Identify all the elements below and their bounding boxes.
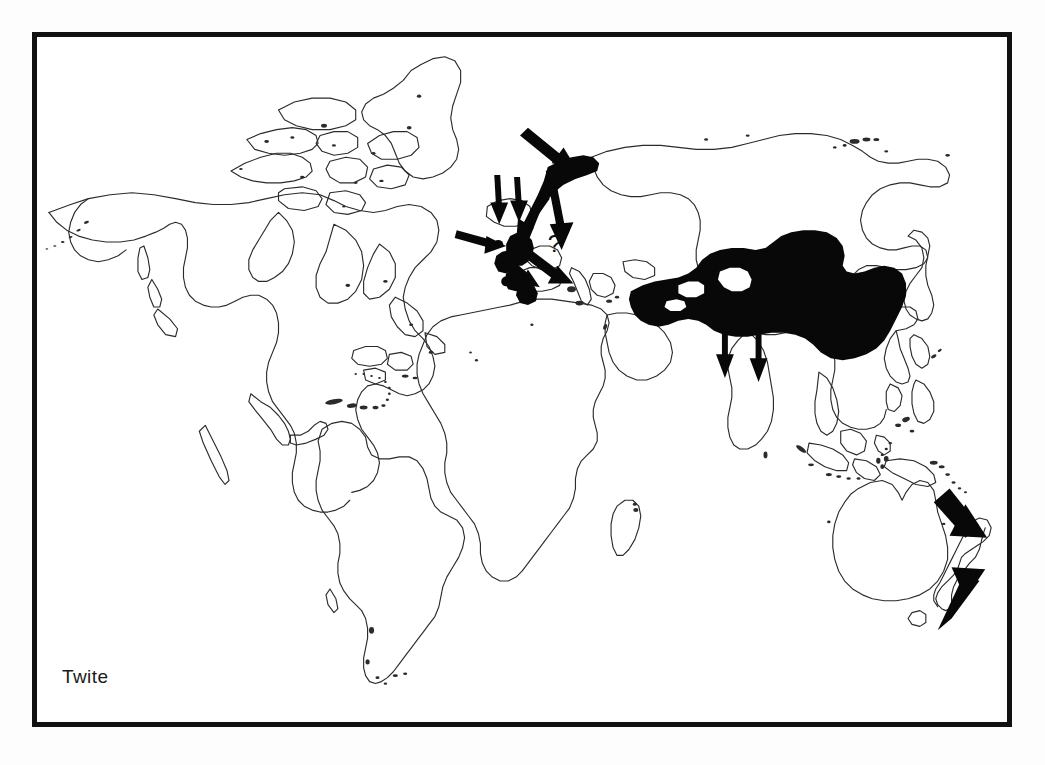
figure-root: ? Twite xyxy=(0,0,1045,765)
continent-australia xyxy=(827,481,948,627)
far-east-japan xyxy=(876,230,942,464)
continent-south-america xyxy=(316,421,464,684)
range-central-asia xyxy=(629,230,906,360)
greenland xyxy=(362,57,461,179)
species-label: Twite xyxy=(62,666,108,688)
map-frame: ? xyxy=(32,32,1012,727)
arrow-to-new-zealand-northwest xyxy=(934,488,987,537)
great-lakes xyxy=(352,346,418,383)
uncertainty-question-mark: ? xyxy=(548,230,562,257)
arrow-to-new-zealand-southwest xyxy=(938,567,986,630)
world-distribution-map: ? xyxy=(37,37,1007,722)
arrow-to-norway-nw xyxy=(520,128,575,171)
continent-north-america xyxy=(46,193,439,512)
central-america-caribbean xyxy=(249,373,391,445)
